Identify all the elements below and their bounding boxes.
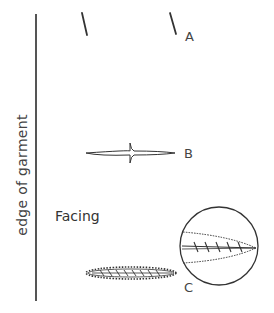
cut-slit-b — [86, 143, 175, 163]
buttonhole-diagram-art — [0, 0, 274, 313]
label-c: C — [184, 280, 193, 295]
label-a: A — [185, 29, 194, 44]
magnified-detail-circle — [180, 207, 258, 285]
facing-label: Facing — [55, 208, 100, 224]
stitched-buttonhole-c — [86, 267, 176, 279]
label-b: B — [184, 146, 193, 161]
slit-marks-a — [82, 13, 176, 35]
